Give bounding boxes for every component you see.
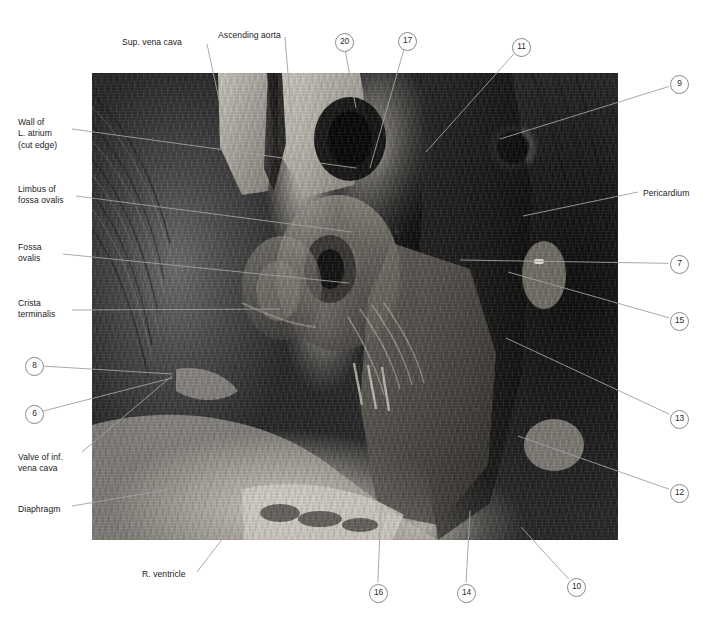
label-pericardium: Pericardium: [643, 188, 689, 199]
marker-10: 10: [567, 578, 586, 597]
marker-20: 20: [335, 33, 354, 52]
label-ascending-aorta: Ascending aorta: [218, 30, 281, 41]
dissection-photograph: [92, 73, 618, 540]
label-fossa-ovalis: Fossa ovalis: [18, 242, 42, 265]
marker-9: 9: [670, 75, 689, 94]
marker-14: 14: [457, 584, 476, 603]
marker-7: 7: [670, 255, 689, 274]
marker-12: 12: [670, 484, 689, 503]
label-limbus-fossa-ovalis: Limbus of fossa ovalis: [18, 184, 64, 207]
marker-16: 16: [369, 584, 388, 603]
label-crista-terminalis: Crista terminalis: [18, 298, 55, 321]
label-r-ventricle: R. ventricle: [142, 569, 186, 580]
label-diaphragm: Diaphragm: [18, 504, 60, 515]
marker-13: 13: [670, 410, 689, 429]
label-sup-vena-cava: Sup. vena cava: [122, 37, 182, 48]
label-wall-l-atrium: Wall of L. atrium (cut edge): [18, 117, 57, 151]
marker-17: 17: [398, 32, 417, 51]
photo-film-grain: [92, 73, 618, 540]
marker-8: 8: [25, 357, 44, 376]
anatomical-figure-plate: Sup. vena cavaAscending aortaWall of L. …: [0, 0, 709, 623]
label-valve-inf-vena-cava: Valve of inf. vena cava: [18, 452, 63, 475]
marker-15: 15: [670, 312, 689, 331]
marker-11: 11: [512, 38, 531, 57]
marker-6: 6: [25, 405, 44, 424]
